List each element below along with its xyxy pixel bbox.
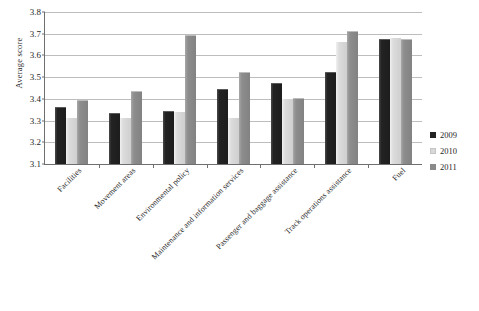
bar-2010-0 [66,117,77,164]
bar-2010-3 [228,117,239,164]
bar-2011-4 [293,98,304,164]
x-label-1: Movement areas [92,166,137,211]
bar-2009-3 [217,89,228,164]
y-tick-label: 3.2 [30,137,41,147]
bar-group [153,12,207,164]
y-tick-label: 3.5 [30,72,41,82]
legend-swatch-icon [430,164,436,170]
bar-group [45,12,99,164]
bar-chart: Average score 3.13.23.33.43.53.63.73.8 F… [0,0,479,311]
legend-item-2011: 2011 [430,162,457,172]
bar-2011-1 [131,91,142,164]
bar-2009-0 [55,107,66,164]
bar-2009-6 [379,39,390,164]
y-tick-label: 3.7 [30,29,41,39]
x-label-0: Facilities [56,166,84,194]
bar-2011-2 [185,35,196,164]
bar-group [207,12,261,164]
y-tick-label: 3.4 [30,94,41,104]
bar-group [99,12,153,164]
bar-group [260,12,314,164]
bar-2011-6 [401,39,412,164]
legend-label: 2011 [440,162,457,172]
legend-item-2010: 2010 [430,146,457,156]
legend-item-2009: 2009 [430,130,457,140]
bar-group [368,12,422,164]
y-axis-title: Average score [14,8,24,118]
y-tick-label: 3.1 [30,159,41,169]
legend: 200920102011 [430,130,457,172]
y-tick-label: 3.8 [30,7,41,17]
bar-2011-3 [239,72,250,164]
bar-2010-5 [336,41,347,164]
bar-2010-6 [390,37,401,164]
bar-2009-2 [163,111,174,164]
clipped-caption [0,302,479,311]
bar-2010-1 [120,117,131,164]
legend-swatch-icon [430,132,436,138]
x-label-6: Fuel [391,166,408,183]
legend-label: 2009 [440,130,457,140]
x-axis-labels: FacilitiesMovement areasEnvironmental po… [44,166,422,286]
bar-2010-4 [282,98,293,164]
legend-label: 2010 [440,146,457,156]
bar-group [314,12,368,164]
bar-2009-4 [271,83,282,164]
bar-groups [45,12,422,164]
plot-area: 3.13.23.33.43.53.63.73.8 [44,12,422,165]
legend-swatch-icon [430,148,436,154]
bar-2009-5 [325,72,336,164]
y-tick-label: 3.3 [30,116,41,126]
y-tick-label: 3.6 [30,50,41,60]
bar-2010-2 [174,111,185,164]
x-label-3: Maintenance and information services [150,166,245,261]
bar-2011-0 [77,100,88,164]
x-label-2: Environmental policy [134,166,191,223]
bar-2009-1 [109,113,120,164]
bar-2011-5 [347,31,358,164]
